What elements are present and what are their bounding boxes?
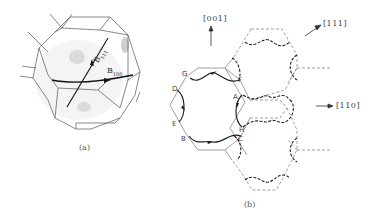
dashed-orbits <box>232 40 297 183</box>
point-g-label: G <box>182 70 187 78</box>
direction-arrows <box>209 25 333 108</box>
b100-label-sub: 100 <box>113 71 123 77</box>
figure: B111 B100 (a) [001] [111] [110] G F D A … <box>0 0 375 216</box>
point-c-label: C <box>238 135 243 143</box>
point-d-label: D <box>172 85 177 93</box>
point-a-label: A <box>233 93 238 101</box>
point-h-label: H <box>239 126 244 134</box>
direction-111-label: [111] <box>323 19 347 28</box>
direction-110-label: [110] <box>336 101 360 110</box>
upper-right-hexagon <box>234 29 330 118</box>
caption-b: (b) <box>244 200 255 209</box>
b100-label: B100 <box>107 66 122 77</box>
direction-001-label: [001] <box>203 14 227 23</box>
point-b-label: B <box>181 135 186 143</box>
point-f-label: F <box>238 76 242 84</box>
orbit-arrows <box>181 71 239 144</box>
diagram-svg <box>0 0 375 216</box>
lower-right-hexagon <box>232 108 330 190</box>
point-e-label: E <box>172 120 176 128</box>
caption-a: (a) <box>79 143 90 152</box>
